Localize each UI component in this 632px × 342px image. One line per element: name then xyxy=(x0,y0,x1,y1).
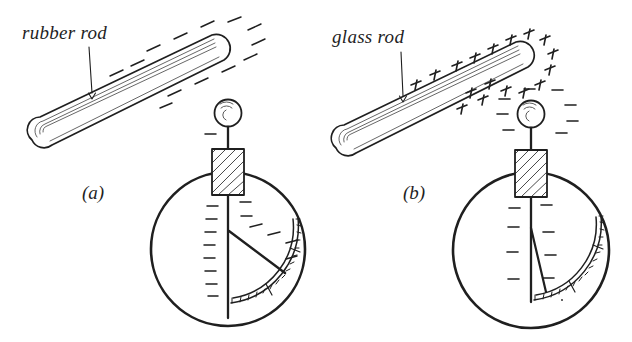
figure-canvas: rubber rod glass rod (a) (b) xyxy=(0,0,632,342)
glass-rod-label: glass rod xyxy=(332,26,404,48)
electroscope-b-insulator xyxy=(515,150,547,197)
glass-rod-inner-lines xyxy=(339,46,523,149)
panel-b-drawing xyxy=(0,0,632,342)
electroscope-b-needle xyxy=(531,228,546,292)
panel-a-label: (a) xyxy=(82,182,104,204)
rubber-rod-label: rubber rod xyxy=(22,22,107,44)
panel-b-label: (b) xyxy=(403,182,425,204)
electroscope-b-knob-shading xyxy=(523,103,536,121)
electroscope-b-knob xyxy=(518,101,545,128)
